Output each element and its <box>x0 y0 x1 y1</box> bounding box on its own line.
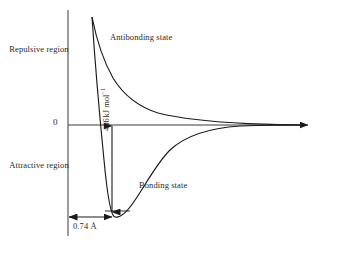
bond-energy-unit: kJ mol <box>101 95 111 118</box>
bonding-state-curve <box>92 17 305 217</box>
potential-energy-diagram: Repulsive region Attractive region 0 Ant… <box>0 0 339 256</box>
bond-energy-label: 436 kJ mol−1 <box>99 88 111 131</box>
attractive-region-label: Attractive region <box>8 160 70 171</box>
bond-energy-exponent: −1 <box>99 88 106 95</box>
antibonding-state-label: Antibonding state <box>110 32 172 43</box>
zero-tick-label: 0 <box>53 117 58 128</box>
bond-length-label: 0.74 Å <box>73 221 97 232</box>
bond-energy-value: 436 <box>101 118 111 131</box>
repulsive-region-label: Repulsive region <box>8 44 70 55</box>
bonding-state-label: Bonding state <box>139 180 187 191</box>
